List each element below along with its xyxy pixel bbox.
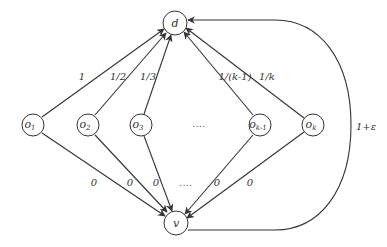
edge-okm1-v [185, 135, 253, 214]
node-d: d [163, 11, 187, 35]
node-v-label: v [173, 217, 180, 230]
edge-o2-v [95, 135, 167, 212]
node-o2: o2 [77, 114, 99, 136]
edge-ok-v [187, 132, 304, 218]
label-o2-v: 0 [127, 177, 134, 188]
node-d-label: d [171, 17, 178, 30]
node-okm1: ok-1 [249, 114, 271, 136]
label-ok-v: 0 [247, 177, 254, 188]
label-okm1-v: 0 [214, 177, 221, 188]
edges-to-v [42, 132, 304, 218]
edge-o3-v [144, 136, 172, 211]
node-o3: o3 [130, 114, 152, 136]
label-okm1-d: 1/(k-1) [218, 71, 251, 82]
label-ok-d: 1/k [259, 71, 275, 82]
label-o2-d: 1/2 [110, 71, 126, 82]
node-o1: o1 [22, 114, 44, 136]
node-v: v [164, 211, 188, 235]
label-v-d-back: 1+ε [356, 121, 376, 132]
label-o1-d: 1 [79, 71, 85, 82]
graph-diagram: d v o1 o2 o3 ok-1 ok .... 1 1/2 1/3 1/(k… [0, 0, 387, 247]
middle-nodes-ellipsis: .... [192, 119, 205, 129]
label-o3-v: 0 [153, 177, 160, 188]
node-ok: ok [302, 114, 324, 136]
label-o1-v: 0 [91, 177, 98, 188]
label-o3-d: 1/3 [140, 71, 156, 82]
edge-o1-v [42, 133, 165, 216]
label-middle-v: .... [179, 178, 192, 188]
